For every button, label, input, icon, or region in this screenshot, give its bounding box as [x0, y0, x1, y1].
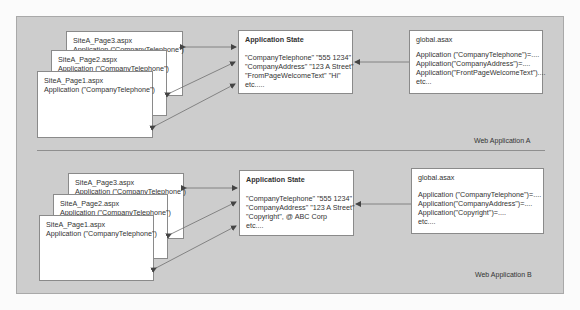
page-name: SiteA_Page1.aspx — [44, 76, 146, 85]
state-entry: "Copyright", @ ABC Corp — [246, 212, 347, 221]
global-asax-title: global.asax — [418, 173, 537, 182]
application-state-title: Application State — [245, 35, 346, 44]
section-label: Web Application A — [474, 137, 530, 144]
page-name: SiteA_Page3.aspx — [75, 178, 177, 187]
section-divider — [37, 150, 545, 151]
state-entry: "CompanyTelephone" "555 1234" — [246, 194, 347, 203]
global-entry: Application ("CompanyTelephone")=.... — [416, 50, 536, 59]
global-entry: Application("CompanyAddress")=.... — [416, 59, 536, 68]
global-asax-title: global.asax — [416, 35, 536, 44]
application-state-box: Application State "CompanyTelephone" "55… — [239, 170, 354, 236]
page1-box: SiteA_Page1.aspx Application ("CompanyTe… — [39, 215, 154, 281]
state-entry: "FromPageWelcomeText" "Hi" — [245, 71, 346, 80]
state-entry: etc..... — [245, 80, 346, 89]
page1-box: SiteA_Page1.aspx Application ("CompanyTe… — [37, 71, 153, 138]
page-name: SiteA_Page1.aspx — [46, 220, 147, 229]
page-code: Application ("CompanyTelephone") — [46, 229, 147, 238]
global-entry: etc.... — [418, 217, 537, 226]
state-entry: etc.... — [246, 221, 347, 230]
state-entry: "CompanyAddress" "123 A Street" — [246, 203, 347, 212]
global-entry: Application ("CompanyTelephone")=.... — [418, 190, 537, 199]
state-entry: "CompanyTelephone" "555 1234" — [245, 53, 346, 62]
global-asax-box: global.asax Application ("CompanyTelepho… — [409, 30, 543, 94]
application-state-title: Application State — [246, 175, 347, 184]
section-label: Web Application B — [475, 271, 532, 278]
global-entry: etc... — [416, 77, 536, 86]
page-name: SiteA_Page2.aspx — [60, 199, 161, 208]
global-entry: Application("CompanyAddress")=.... — [418, 199, 537, 208]
global-entry: Application("Copyright")=.... — [418, 208, 537, 217]
application-state-box: Application State "CompanyTelephone" "55… — [238, 30, 353, 94]
page-name: SiteA_Page2.aspx — [58, 55, 160, 64]
global-asax-box: global.asax Application ("CompanyTelepho… — [411, 168, 544, 234]
page-name: SiteA_Page3.aspx — [73, 36, 176, 45]
state-entry: "CompanyAddress" "123 A Street" — [245, 62, 346, 71]
page-code: Application ("CompanyTelephone") — [44, 85, 146, 94]
global-entry: Application("FrontPageWelcomeText").... — [416, 68, 536, 77]
